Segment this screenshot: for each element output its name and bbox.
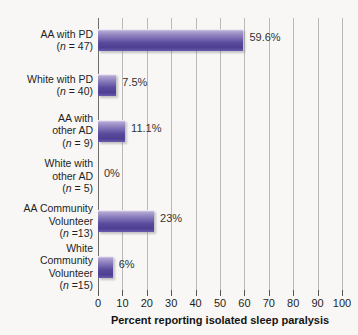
bar-chart-figure: AA with PD(n = 47)White with PD(n = 40)A… <box>0 0 358 335</box>
tick-label-60: 60 <box>238 297 250 310</box>
bar-value-label: 23% <box>160 212 182 224</box>
bar-value-label: 0% <box>104 167 120 179</box>
bar[interactable] <box>98 29 243 51</box>
category-label-line: White with <box>0 157 93 170</box>
tick-label-70: 70 <box>263 297 275 310</box>
bar-row[interactable]: 11.1% <box>98 109 342 154</box>
category-label-line: AA Community <box>0 202 93 215</box>
tick-label-10: 10 <box>116 297 128 310</box>
tick-mark-80 <box>293 290 294 296</box>
category-label-line: other AD <box>0 170 93 183</box>
category-label-line: AA with <box>0 112 93 125</box>
tick-mark-60 <box>244 290 245 296</box>
tick-mark-50 <box>220 290 221 296</box>
x-axis-title: Percent reporting isolated sleep paralys… <box>98 313 342 327</box>
bar-series: 59.6%7.5%11.1%0%23%6% <box>98 18 342 290</box>
bar[interactable] <box>98 256 113 278</box>
bar-value-label: 7.5% <box>122 76 147 88</box>
category-label-line: White <box>0 242 93 255</box>
tick-label-20: 20 <box>141 297 153 310</box>
category-sample-size: (n = 40) <box>0 85 93 98</box>
category-sample-size: (n =15) <box>0 279 93 292</box>
tick-mark-30 <box>171 290 172 296</box>
tick-label-90: 90 <box>311 297 323 310</box>
bar-row[interactable]: 59.6% <box>98 18 342 63</box>
category-label: WhiteCommunityVolunteer(n =15) <box>0 242 93 292</box>
tick-mark-0 <box>98 290 99 296</box>
gridline-100 <box>342 18 343 290</box>
tick-label-80: 80 <box>287 297 299 310</box>
bar[interactable] <box>98 74 116 96</box>
category-axis-labels: AA with PD(n = 47)White with PD(n = 40)A… <box>0 18 93 290</box>
category-sample-size: (n =13) <box>0 227 93 240</box>
bar-value-label: 6% <box>119 258 135 270</box>
category-label-line: White with PD <box>0 73 93 86</box>
bar-row[interactable]: 0% <box>98 154 342 199</box>
tick-label-100: 100 <box>333 297 351 310</box>
tick-mark-90 <box>318 290 319 296</box>
bar-value-label: 59.6% <box>249 31 280 43</box>
tick-label-40: 40 <box>189 297 201 310</box>
tick-mark-10 <box>122 290 123 296</box>
tick-mark-70 <box>269 290 270 296</box>
tick-mark-40 <box>196 290 197 296</box>
category-sample-size: (n = 9) <box>0 137 93 150</box>
category-label-line: Volunteer <box>0 267 93 280</box>
bar-row[interactable]: 7.5% <box>98 63 342 108</box>
bar[interactable] <box>98 120 125 142</box>
category-label: White withother AD(n = 5) <box>0 157 93 195</box>
tick-label-50: 50 <box>214 297 226 310</box>
category-label: AA with PD(n = 47) <box>0 28 93 53</box>
bar-value-label: 11.1% <box>131 122 161 134</box>
tick-label-30: 30 <box>165 297 177 310</box>
category-sample-size: (n = 5) <box>0 182 93 195</box>
bar[interactable] <box>98 210 154 232</box>
category-label-line: other AD <box>0 124 93 137</box>
tick-mark-100 <box>342 290 343 296</box>
category-label-line: Volunteer <box>0 215 93 228</box>
category-label: AA CommunityVolunteer(n =13) <box>0 202 93 240</box>
x-axis-tick-marks <box>98 290 342 296</box>
bar-row[interactable]: 6% <box>98 245 342 290</box>
x-axis-tick-labels: 0102030405060708090100 <box>98 297 342 311</box>
tick-mark-20 <box>147 290 148 296</box>
category-label: AA withother AD(n = 9) <box>0 112 93 150</box>
category-sample-size: (n = 47) <box>0 40 93 53</box>
bar-row[interactable]: 23% <box>98 199 342 244</box>
category-label-line: AA with PD <box>0 28 93 41</box>
tick-label-0: 0 <box>95 297 101 310</box>
category-label-line: Community <box>0 254 93 267</box>
category-label: White with PD(n = 40) <box>0 73 93 98</box>
